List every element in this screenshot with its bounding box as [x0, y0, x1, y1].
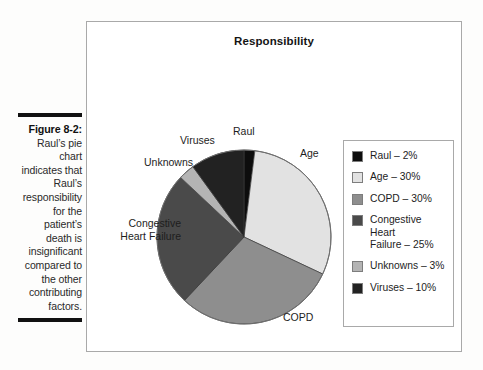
- pie-chart-svg: [156, 149, 332, 325]
- pie-label-copd: COPD: [283, 311, 313, 324]
- legend-swatch-unknowns: [352, 261, 363, 272]
- pie-label-raul: Raul: [233, 125, 255, 138]
- scanned-page: Figure 8-2: Raul’s pie chart indicates t…: [0, 0, 483, 370]
- chf-line-1: Congestive: [128, 217, 181, 229]
- legend-item-raul: Raul – 2%: [352, 150, 446, 162]
- caption-rule-top: [18, 113, 82, 117]
- pie-label-congestive-heart-failure: CongestiveHeart Failure: [99, 217, 181, 242]
- legend-item-viruses: Viruses – 10%: [352, 282, 446, 294]
- legend-swatch-copd: [352, 194, 363, 205]
- legend-chf-line-2: Failure – 25%: [370, 239, 434, 250]
- pie-label-age: Age: [300, 147, 319, 160]
- pie-label-viruses: Viruses: [180, 134, 215, 147]
- legend-swatch-viruses: [352, 283, 363, 294]
- legend-item-congestive-heart-failure: Congestive HeartFailure – 25%: [352, 214, 446, 251]
- pie-slices: [157, 150, 331, 324]
- figure-number: Figure 8-2:: [18, 123, 82, 137]
- caption-body: Raul’s pie chart indicates that Raul’s r…: [22, 137, 82, 312]
- legend-item-age: Age – 30%: [352, 171, 446, 183]
- figure-frame: Responsibility Raul Age Viruses Unknowns…: [86, 21, 462, 352]
- pie-chart: [156, 149, 332, 325]
- legend-item-copd: COPD – 30%: [352, 193, 446, 205]
- legend-label-congestive-heart-failure: Congestive HeartFailure – 25%: [370, 214, 446, 251]
- chart-legend: Raul – 2% Age – 30% COPD – 30% Congestiv…: [343, 140, 454, 327]
- legend-swatch-age: [352, 172, 363, 183]
- legend-swatch-congestive-heart-failure: [352, 215, 363, 226]
- legend-label-unknowns: Unknowns – 3%: [370, 260, 444, 272]
- chart-title: Responsibility: [87, 35, 461, 47]
- legend-label-age: Age – 30%: [370, 171, 420, 183]
- caption-rule-bottom: [18, 318, 82, 322]
- legend-label-copd: COPD – 30%: [370, 193, 432, 205]
- legend-swatch-raul: [352, 151, 363, 162]
- legend-label-raul: Raul – 2%: [370, 150, 418, 162]
- caption-text: Figure 8-2: Raul’s pie chart indicates t…: [18, 123, 82, 313]
- legend-chf-line-1: Congestive Heart: [370, 214, 422, 237]
- pie-label-unknowns: Unknowns: [144, 156, 193, 169]
- chf-line-2: Heart Failure: [120, 230, 181, 242]
- figure-caption: Figure 8-2: Raul’s pie chart indicates t…: [18, 113, 82, 322]
- legend-label-viruses: Viruses – 10%: [370, 282, 436, 294]
- legend-item-unknowns: Unknowns – 3%: [352, 260, 446, 272]
